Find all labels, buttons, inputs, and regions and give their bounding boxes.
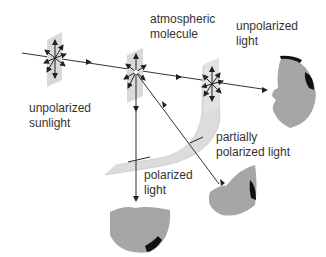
- label-line: partially: [216, 130, 290, 145]
- scatter-ribbon: [105, 60, 220, 175]
- label-line: polarized light: [216, 145, 290, 160]
- label-line: atmospheric: [150, 12, 215, 27]
- observer-face-right: [272, 56, 316, 128]
- label-atmospheric-molecule: atmospheric molecule: [150, 12, 215, 42]
- label-unpolarized-sunlight: unpolarized sunlight: [29, 101, 91, 131]
- observer-face-partial: [209, 165, 257, 216]
- molecule-plane: [124, 48, 146, 103]
- label-line: unpolarized: [236, 19, 298, 34]
- label-line: sunlight: [29, 116, 91, 131]
- label-line: light: [236, 34, 298, 49]
- label-partially-polarized-light: partially polarized light: [216, 130, 290, 160]
- unpolarized-plane: [202, 58, 223, 114]
- label-line: polarized: [144, 168, 193, 183]
- label-line: light: [144, 183, 193, 198]
- label-line: molecule: [150, 27, 215, 42]
- observer-face-bottom: [110, 207, 170, 253]
- label-polarized-light: polarized light: [144, 168, 193, 198]
- label-line: unpolarized: [29, 101, 91, 116]
- label-unpolarized-light: unpolarized light: [236, 19, 298, 49]
